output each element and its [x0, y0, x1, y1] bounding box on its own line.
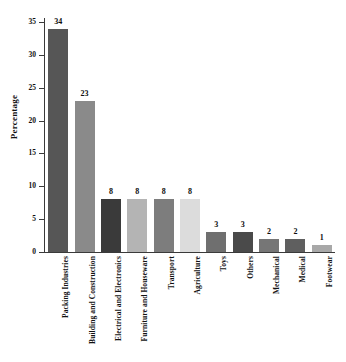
x-axis-category-label: Furniture and Houseware — [140, 256, 149, 341]
bar-value-label: 1 — [312, 234, 332, 242]
y-tick-mark — [39, 88, 44, 89]
bar — [127, 199, 147, 252]
bar-slot: 8 — [101, 22, 121, 252]
bar — [180, 199, 200, 252]
bar-value-label: 2 — [285, 228, 305, 236]
x-axis-category-label: Packing Industries — [61, 256, 70, 318]
y-tick-label: 25 — [12, 84, 36, 92]
bar-value-label: 8 — [127, 188, 147, 196]
plot-area: 3423888833221 — [45, 22, 335, 252]
bar-slot: 3 — [206, 22, 226, 252]
bar-slot: 8 — [180, 22, 200, 252]
y-tick-label: 0 — [12, 248, 36, 256]
bar — [75, 101, 95, 252]
bar-slot: 8 — [127, 22, 147, 252]
bar-value-label: 8 — [101, 188, 121, 196]
x-axis-category-label: Building and Construction — [88, 256, 97, 344]
bar-value-label: 23 — [75, 90, 95, 98]
bar — [154, 199, 174, 252]
x-axis-category-label: Transport — [167, 256, 176, 289]
bar-value-label: 8 — [154, 188, 174, 196]
y-tick-label: 35 — [12, 18, 36, 26]
x-axis-category-label: Electrical and Electronics — [114, 256, 123, 341]
y-tick-label: 5 — [12, 215, 36, 223]
x-axis-line — [44, 252, 335, 253]
bar-slot: 3 — [233, 22, 253, 252]
bar — [233, 232, 253, 252]
bar — [312, 245, 332, 252]
bar-value-label: 2 — [259, 228, 279, 236]
x-axis-category-label: Agriculture — [193, 256, 202, 294]
y-tick-mark — [39, 186, 44, 187]
x-axis-category-label: Mechanical — [272, 256, 281, 294]
y-tick-mark — [39, 55, 44, 56]
bar-value-label: 3 — [233, 221, 253, 229]
y-tick-label: 20 — [12, 117, 36, 125]
bar-slot: 23 — [75, 22, 95, 252]
y-tick-mark — [39, 219, 44, 220]
x-axis-category-label: Footwear — [325, 256, 334, 287]
y-tick-mark — [39, 22, 44, 23]
x-axis-category-label: Medical — [298, 256, 307, 283]
bar — [101, 199, 121, 252]
bar-slot: 1 — [312, 22, 332, 252]
bar-slot: 2 — [285, 22, 305, 252]
y-tick-mark — [39, 121, 44, 122]
bar — [259, 239, 279, 252]
bar-value-label: 34 — [48, 18, 68, 26]
y-tick-label: 15 — [12, 149, 36, 157]
bar — [48, 29, 68, 252]
bar-chart: Percentage 05101520253035 3423888833221 … — [0, 0, 346, 362]
bar-slot: 34 — [48, 22, 68, 252]
bar-slot: 2 — [259, 22, 279, 252]
y-tick-label: 10 — [12, 182, 36, 190]
bar-slot: 8 — [154, 22, 174, 252]
y-tick-mark — [39, 252, 44, 253]
x-axis-category-label: Others — [246, 256, 255, 279]
bar — [285, 239, 305, 252]
bar — [206, 232, 226, 252]
y-tick-mark — [39, 153, 44, 154]
bar-value-label: 3 — [206, 221, 226, 229]
x-axis-category-label: Toys — [219, 256, 228, 271]
y-tick-label: 30 — [12, 51, 36, 59]
bar-value-label: 8 — [180, 188, 200, 196]
